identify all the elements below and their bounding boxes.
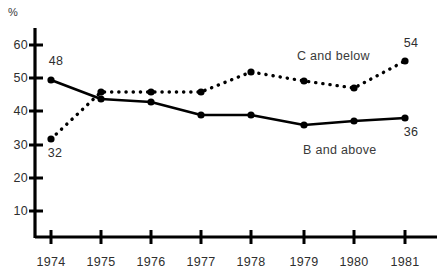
line-chart: % 60 50 40 30 20 10 1974 1975 1976 1977 … <box>0 0 440 280</box>
series-markers-b-and-above <box>47 76 408 128</box>
plot-area <box>0 0 440 280</box>
